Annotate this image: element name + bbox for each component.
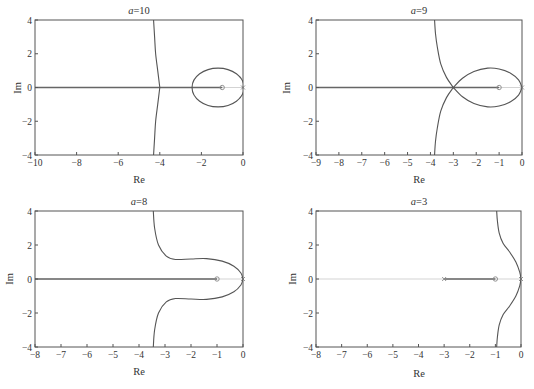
y-axis-label: Im xyxy=(287,273,298,285)
x-tick-label: −5 xyxy=(403,158,413,168)
locus-asymptote-branch-lower xyxy=(154,88,160,156)
locus-asymptote-branch-upper xyxy=(154,20,160,88)
locus-branches xyxy=(316,20,522,155)
locus-branches xyxy=(35,211,243,347)
y-tick-label: −4 xyxy=(303,343,313,353)
x-tick-label: 0 xyxy=(241,158,246,168)
y-axis-label: Im xyxy=(4,273,15,285)
x-tick-label: −1 xyxy=(212,350,222,360)
subplot-title: a=9 xyxy=(411,5,427,16)
x-tick-label: −5 xyxy=(108,350,118,360)
y-tick-label: −2 xyxy=(303,309,313,319)
y-tick-label: −2 xyxy=(303,117,313,127)
x-tick-label: −2 xyxy=(186,350,196,360)
x-tick-label: −6 xyxy=(113,158,123,168)
y-tick-label: 4 xyxy=(308,207,313,217)
subplot-a3: a=3 Re Im −8−7−6−5−4−3−2−10−4−2024 xyxy=(287,196,524,379)
x-tick-label: −3 xyxy=(160,350,170,360)
y-tick-label: 4 xyxy=(27,207,32,217)
locus-upper xyxy=(153,211,243,279)
x-axis-label: Re xyxy=(413,368,425,379)
x-tick-label: −2 xyxy=(196,158,206,168)
x-axis-label: Re xyxy=(413,174,425,185)
subplot-a8: a=8 Re Im −8−7−6−5−4−3−2−10−4−2024 xyxy=(4,196,246,377)
y-tick-label: 0 xyxy=(308,275,313,285)
x-tick-label: −4 xyxy=(425,158,435,168)
subplot-a10: a=10 Re Im −10−8−6−4−20−4−2024 xyxy=(12,5,246,185)
locus-lower xyxy=(497,279,521,347)
y-tick-label: −4 xyxy=(303,151,313,161)
x-tick-label: −1 xyxy=(494,158,504,168)
x-tick-label: −6 xyxy=(82,350,92,360)
y-tick-label: 2 xyxy=(27,49,32,59)
x-tick-label: −6 xyxy=(362,350,372,360)
x-tick-label: −4 xyxy=(134,350,144,360)
y-tick-label: −4 xyxy=(22,343,32,353)
y-tick-label: 0 xyxy=(27,83,32,93)
locus-lower xyxy=(153,279,243,347)
x-tick-label: −7 xyxy=(337,350,347,360)
y-axis-label: Im xyxy=(12,82,23,94)
x-tick-label: 0 xyxy=(520,158,525,168)
x-tick-label: −1 xyxy=(490,350,500,360)
x-tick-label: −7 xyxy=(357,158,367,168)
x-tick-label: −4 xyxy=(413,350,423,360)
subplot-title: a=8 xyxy=(131,196,147,207)
x-tick-label: −6 xyxy=(380,158,390,168)
y-tick-label: 2 xyxy=(308,241,313,251)
x-tick-label: 0 xyxy=(241,350,246,360)
root-locus-figure: a=10 Re Im −10−8−6−4−20−4−2024 a=9 Re Im… xyxy=(0,0,534,389)
x-tick-label: −8 xyxy=(72,158,82,168)
y-tick-label: 4 xyxy=(27,16,32,26)
x-tick-label: −4 xyxy=(155,158,165,168)
x-tick-label: −2 xyxy=(471,158,481,168)
locus-upper-outer xyxy=(435,20,454,88)
x-tick-label: −7 xyxy=(56,350,66,360)
subplot-title: a=10 xyxy=(128,5,150,16)
x-tick-label: −3 xyxy=(439,350,449,360)
y-tick-label: 0 xyxy=(308,83,313,93)
subplot-title: a=3 xyxy=(411,196,427,207)
locus-lower-loop xyxy=(453,88,522,108)
x-axis-label: Re xyxy=(133,366,145,377)
y-tick-label: 0 xyxy=(27,275,32,285)
y-tick-label: 4 xyxy=(308,16,313,26)
x-tick-label: 0 xyxy=(519,350,524,360)
y-tick-label: −2 xyxy=(22,309,32,319)
y-tick-label: −4 xyxy=(22,151,32,161)
locus-lower-outer xyxy=(435,88,454,156)
x-tick-label: −5 xyxy=(388,350,398,360)
y-tick-label: −2 xyxy=(22,117,32,127)
y-tick-label: 2 xyxy=(27,241,32,251)
locus-branches xyxy=(35,20,244,155)
x-tick-label: −8 xyxy=(334,158,344,168)
subplot-a9: a=9 Re Im −9−8−7−6−5−4−3−2−10−4−2024 xyxy=(281,5,525,185)
y-tick-label: 2 xyxy=(308,49,313,59)
y-axis-label: Im xyxy=(281,82,292,94)
x-tick-label: −3 xyxy=(448,158,458,168)
locus-upper xyxy=(497,211,521,279)
x-axis-label: Re xyxy=(133,174,145,185)
locus-upper-loop xyxy=(453,68,522,88)
x-tick-label: −2 xyxy=(465,350,475,360)
